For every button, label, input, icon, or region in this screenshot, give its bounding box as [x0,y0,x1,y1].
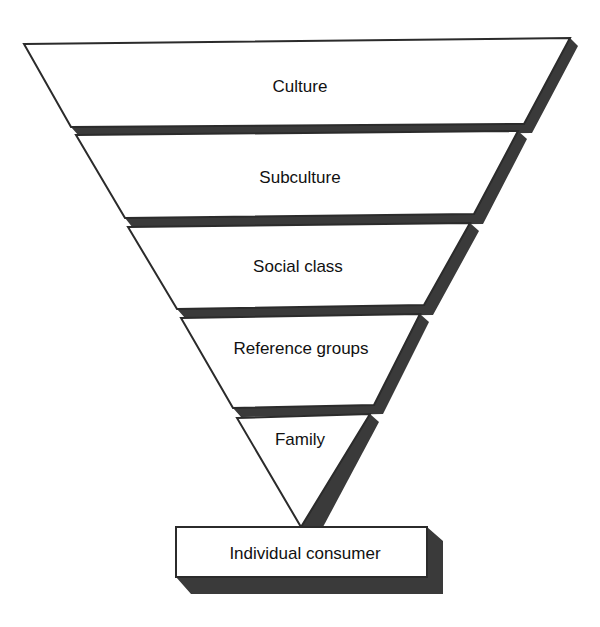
pyramid-layer-culture: Culture [24,38,578,136]
layer-label: Family [275,430,326,449]
layer-label: Reference groups [233,339,368,358]
pyramid-layer-family: Family [237,414,379,527]
layer-label: Culture [273,77,328,96]
layer-label: Subculture [259,168,340,187]
base-label: Individual consumer [229,544,381,563]
base-individual-consumer: Individual consumer [176,527,443,594]
pyramid-layer-social-class: Social class [128,223,479,318]
inverted-pyramid-diagram: Culture Subculture Social class Referenc… [0,0,600,627]
pyramid-layer-reference-groups: Reference groups [181,314,429,417]
layer-label: Social class [253,257,343,276]
pyramid-layer-subculture: Subculture [76,131,527,228]
